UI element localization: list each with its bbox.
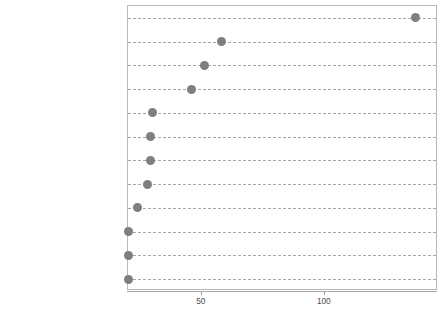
gridline [128, 65, 436, 66]
data-point-marker[interactable] [124, 227, 133, 236]
data-point-marker[interactable] [187, 85, 196, 94]
data-point-marker[interactable] [124, 275, 133, 284]
x-axis-tick [324, 291, 325, 295]
plot-panel: academic librariesinformation literacypu… [127, 5, 437, 290]
gridline [128, 232, 436, 233]
gridline [128, 208, 436, 209]
x-axis-tick-label: 100 [317, 296, 331, 306]
data-point-marker[interactable] [217, 37, 226, 46]
gridline [128, 89, 436, 90]
data-point-marker[interactable] [133, 203, 142, 212]
data-point-marker[interactable] [411, 13, 420, 22]
data-point-marker[interactable] [146, 132, 155, 141]
gridline [128, 113, 436, 114]
data-point-marker[interactable] [124, 251, 133, 260]
dot-plot-chart: academic librariesinformation literacypu… [0, 0, 445, 314]
data-point-marker[interactable] [146, 156, 155, 165]
x-axis-line [127, 291, 437, 292]
data-point-marker[interactable] [148, 108, 157, 117]
gridline [128, 42, 436, 43]
x-axis-tick [201, 291, 202, 295]
data-point-marker[interactable] [143, 180, 152, 189]
x-axis-tick-label: 50 [196, 296, 205, 306]
gridline [128, 18, 436, 19]
gridline [128, 279, 436, 280]
gridline [128, 255, 436, 256]
gridline [128, 160, 436, 161]
data-point-marker[interactable] [200, 61, 209, 70]
gridline [128, 184, 436, 185]
gridline [128, 137, 436, 138]
